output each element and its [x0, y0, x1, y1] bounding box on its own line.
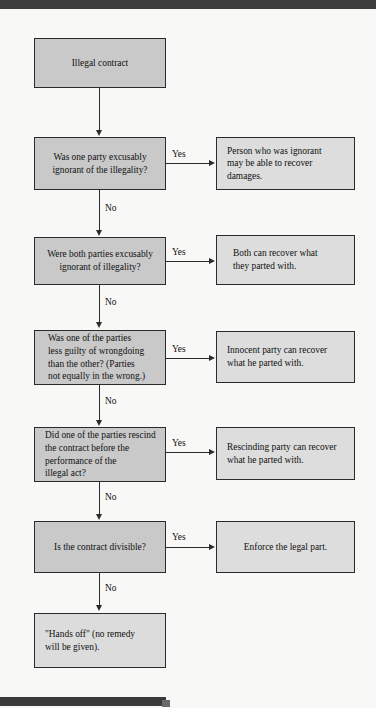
node-decision-contract-divisible-label: Is the contract divisible?	[43, 541, 157, 554]
edge-label-no-2: No	[105, 297, 116, 308]
node-decision-one-party-ignorant-label: Was one party excusably ignorant of the …	[43, 151, 157, 176]
connector-d3-to-d4	[99, 385, 100, 421]
arrowhead-d2-to-o2-icon	[209, 258, 215, 264]
flowchart-canvas: Illegal contract Was one party excusably…	[0, 0, 376, 708]
bottom-scan-bar-edge	[162, 700, 170, 707]
node-decision-rescind-before-performance-label: Did one of the parties rescind the contr…	[45, 429, 159, 479]
edge-label-yes-5: Yes	[172, 532, 186, 543]
edge-label-yes-1: Yes	[172, 149, 186, 160]
node-outcome-enforce-legal-part: Enforce the legal part.	[216, 521, 355, 573]
connector-d1-to-o1	[166, 163, 210, 164]
arrowhead-start-to-d1-icon	[96, 130, 102, 136]
connector-d4-to-d5	[99, 482, 100, 515]
node-outcome-ignorant-party-recovers: Person who was ignorant may be able to r…	[216, 137, 355, 190]
top-scan-bar	[0, 0, 376, 9]
node-outcome-innocent-party-recovers: Innocent party can recover what he parte…	[216, 331, 355, 383]
connector-d2-to-o2	[166, 261, 210, 262]
edge-label-yes-2: Yes	[172, 247, 186, 258]
node-decision-both-parties-ignorant-label: Were both parties excusably ignorant of …	[43, 248, 157, 273]
node-outcome-rescinding-party-recovers: Rescinding party can recover what he par…	[216, 427, 355, 480]
arrowhead-d5-to-o5-icon	[209, 544, 215, 550]
node-decision-contract-divisible: Is the contract divisible?	[34, 521, 166, 573]
node-terminal-hands-off: "Hands off" (no remedy will be given).	[34, 613, 166, 668]
connector-d5-to-o5	[166, 547, 210, 548]
node-outcome-both-recover-label: Both can recover what they parted with.	[233, 247, 348, 272]
arrowhead-d4-to-o4-icon	[209, 449, 215, 455]
connector-d2-to-d3	[99, 285, 100, 323]
arrowhead-d3-to-o3-icon	[209, 355, 215, 361]
node-illegal-contract-label: Illegal contract	[43, 57, 157, 70]
node-outcome-both-recover: Both can recover what they parted with.	[216, 235, 355, 285]
node-outcome-innocent-party-recovers-label: Innocent party can recover what he parte…	[227, 344, 348, 369]
arrowhead-d5-to-terminal-icon	[96, 605, 102, 611]
node-decision-one-party-ignorant: Was one party excusably ignorant of the …	[34, 137, 166, 190]
bottom-scan-bar	[0, 697, 166, 706]
node-decision-less-guilty: Was one of the parties less guilty of wr…	[34, 330, 166, 385]
node-decision-less-guilty-label: Was one of the parties less guilty of wr…	[48, 332, 157, 382]
node-decision-both-parties-ignorant: Were both parties excusably ignorant of …	[34, 237, 166, 285]
connector-d5-to-terminal	[99, 573, 100, 606]
edge-label-no-3: No	[105, 396, 116, 407]
connector-d4-to-o4	[166, 452, 210, 453]
connector-d3-to-o3	[166, 358, 210, 359]
arrowhead-d1-to-d2-icon	[96, 230, 102, 236]
edge-label-no-1: No	[105, 203, 116, 214]
edge-label-yes-3: Yes	[172, 344, 186, 355]
node-decision-rescind-before-performance: Did one of the parties rescind the contr…	[34, 427, 166, 482]
arrowhead-d1-to-o1-icon	[209, 160, 215, 166]
node-outcome-ignorant-party-recovers-label: Person who was ignorant may be able to r…	[227, 145, 348, 183]
connector-start-to-d1	[99, 88, 100, 131]
connector-d1-to-d2	[99, 190, 100, 231]
node-terminal-hands-off-label: "Hands off" (no remedy will be given).	[45, 628, 159, 653]
node-outcome-rescinding-party-recovers-label: Rescinding party can recover what he par…	[227, 441, 348, 466]
arrowhead-d3-to-d4-icon	[96, 420, 102, 426]
node-outcome-enforce-legal-part-label: Enforce the legal part.	[225, 541, 346, 554]
edge-label-no-5: No	[105, 583, 116, 594]
arrowhead-d4-to-d5-icon	[96, 514, 102, 520]
node-illegal-contract: Illegal contract	[34, 38, 166, 88]
arrowhead-d2-to-d3-icon	[96, 322, 102, 328]
edge-label-no-4: No	[105, 492, 116, 503]
edge-label-yes-4: Yes	[172, 438, 186, 449]
